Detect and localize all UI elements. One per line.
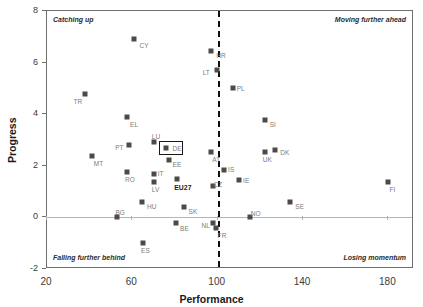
x-tick-mark: [387, 216, 388, 220]
plot-area: Catching up Moving further ahead Falling…: [46, 10, 413, 268]
y-tick-mark: [42, 165, 46, 166]
y-axis-title: Progress: [6, 117, 18, 163]
data-point-label-cz: CZ: [213, 181, 222, 188]
data-point-label-dk: DK: [280, 149, 289, 156]
x-tick-label: 60: [111, 276, 151, 287]
data-point-label-se: SE: [295, 203, 304, 210]
data-point-ie: [237, 177, 242, 182]
data-point-it: [151, 172, 156, 177]
data-point-label-is: IS: [228, 166, 234, 173]
y-tick-mark: [42, 268, 46, 269]
data-point-cy: [132, 37, 137, 42]
data-point-label-lv: LV: [152, 186, 160, 193]
data-point-el: [125, 115, 130, 120]
data-point-tr: [83, 92, 88, 97]
data-point-be: [174, 220, 179, 225]
data-point-lt: [214, 67, 219, 72]
data-point-si: [262, 117, 267, 122]
data-point-sk: [181, 204, 186, 209]
y-tick-label: 0: [16, 211, 38, 221]
data-point-lu: [151, 140, 156, 145]
data-point-label-it: IT: [158, 170, 164, 177]
data-point-label-lt: LT: [203, 69, 210, 76]
data-point-label-cy: CY: [139, 42, 148, 49]
data-point-uk: [262, 149, 267, 154]
y-tick-mark: [42, 10, 46, 11]
y-tick-mark: [42, 62, 46, 63]
data-point-label-ie: IE: [243, 177, 249, 184]
quadrant-label-losing-momentum: Losing momentum: [343, 254, 406, 261]
x-tick-label: 180: [367, 276, 407, 287]
x-tick-mark: [302, 216, 303, 220]
data-point-nl: [211, 220, 216, 225]
data-point-pt: [127, 143, 132, 148]
data-point-es: [141, 241, 146, 246]
data-point-label-mt: MT: [94, 160, 104, 167]
y-tick-label: 4: [16, 108, 38, 118]
data-point-lv: [151, 179, 156, 184]
data-point-label-at: AT: [212, 156, 220, 163]
data-point-label-eu27: EU27: [174, 184, 191, 191]
y-tick-label: 2: [16, 160, 38, 170]
data-point-fi: [386, 180, 391, 185]
x-tick-mark: [46, 216, 47, 220]
data-point-label-es: ES: [141, 247, 150, 254]
x-tick-label: 20: [26, 276, 66, 287]
data-point-hr: [209, 48, 214, 53]
data-point-label-hr: HR: [216, 52, 226, 59]
highlight-box-de: [159, 141, 183, 155]
zero-reference-line: [47, 217, 412, 218]
data-point-label-be: BE: [180, 225, 189, 232]
data-point-label-hu: HU: [147, 203, 157, 210]
data-point-fr: [213, 226, 218, 231]
data-point-label-no: NO: [251, 210, 261, 217]
data-point-dk: [273, 147, 278, 152]
y-tick-label: -2: [16, 263, 38, 273]
quadrant-label-moving-further-ahead: Moving further ahead: [335, 16, 406, 23]
y-tick-mark: [42, 113, 46, 114]
data-point-label-uk: UK: [263, 156, 272, 163]
scatter-chart: Catching up Moving further ahead Falling…: [0, 0, 423, 307]
data-point-label-nl: NL: [201, 222, 210, 229]
data-point-label-fi: FI: [389, 186, 395, 193]
x-tick-mark: [217, 216, 218, 220]
x-tick-mark: [131, 216, 132, 220]
data-point-ro: [125, 169, 130, 174]
data-point-pl: [230, 85, 235, 90]
x-axis-title: Performance: [0, 293, 423, 305]
y-tick-label: 6: [16, 57, 38, 67]
data-point-label-el: EL: [130, 121, 138, 128]
quadrant-label-falling-further-behind: Falling further behind: [53, 254, 125, 261]
data-point-is: [222, 168, 227, 173]
data-point-hu: [139, 199, 144, 204]
data-point-se: [288, 199, 293, 204]
x-tick-label: 140: [282, 276, 322, 287]
data-point-eu27: [175, 177, 180, 182]
data-point-label-lu: LU: [152, 133, 161, 140]
quadrant-label-catching-up: Catching up: [53, 16, 93, 23]
data-point-label-fr: FR: [218, 232, 227, 239]
data-point-ee: [166, 158, 171, 163]
data-point-label-sk: SK: [189, 208, 198, 215]
data-point-at: [209, 149, 214, 154]
data-point-label-ee: EE: [173, 161, 182, 168]
data-point-label-si: SI: [270, 121, 276, 128]
data-point-label-bg: BG: [115, 209, 125, 216]
data-point-label-pl: PL: [237, 85, 245, 92]
data-point-label-ro: RO: [125, 176, 135, 183]
y-tick-label: 8: [16, 5, 38, 15]
data-point-label-tr: TR: [73, 98, 82, 105]
data-point-mt: [89, 154, 94, 159]
data-point-label-pt: PT: [115, 144, 124, 151]
x-tick-label: 100: [197, 276, 237, 287]
